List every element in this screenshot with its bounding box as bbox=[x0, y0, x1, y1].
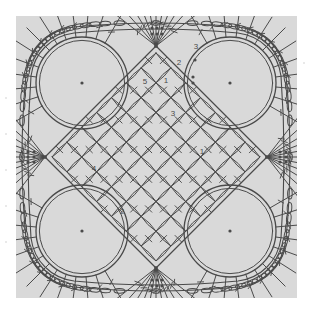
scan-speck-4 bbox=[5, 241, 7, 243]
diagonal-mesh-lattice bbox=[52, 53, 260, 261]
chain-loop-scallop-border bbox=[22, 23, 290, 291]
scan-speck-0 bbox=[5, 97, 7, 99]
round-label-label-5-top: 5 bbox=[143, 77, 148, 86]
corner-fan-clusters bbox=[16, 16, 297, 298]
scan-speck-2 bbox=[5, 169, 7, 171]
inner-square-outline bbox=[45, 46, 267, 268]
scan-speck-3 bbox=[5, 205, 7, 207]
join-dots bbox=[26, 26, 287, 287]
round-label-label-2-topright: 2 bbox=[177, 58, 182, 67]
page-root: 12345123 bbox=[0, 0, 317, 317]
edge-fan-clusters bbox=[16, 16, 297, 298]
diagram-panel: 12345123 bbox=[16, 16, 297, 298]
outer-chain-links bbox=[20, 21, 293, 294]
scan-speck-1 bbox=[5, 133, 7, 135]
scan-speck-5 bbox=[303, 62, 305, 64]
corner-arc-ring bbox=[36, 37, 276, 277]
round-label-label-1-topright: 1 bbox=[164, 76, 169, 85]
crochet-chart-svg: 12345123 bbox=[16, 16, 297, 298]
